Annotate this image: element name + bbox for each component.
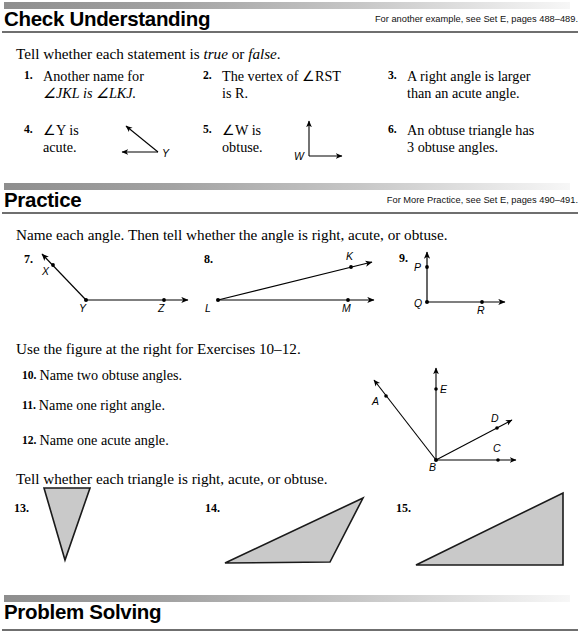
- exercise-3-line1: A right angle is larger: [407, 68, 530, 84]
- divider-problem-solving: [2, 629, 578, 631]
- exercise-4-number: 4.: [24, 123, 33, 137]
- exercise-2-number: 2.: [203, 69, 212, 83]
- exercise-3-number: 3.: [388, 69, 397, 83]
- figure-label-Y: Y: [162, 147, 170, 159]
- exercise-2-line1: The vertex of ∠RST: [222, 68, 341, 84]
- exercise-1-line2: ∠JKL is ∠LKJ.: [43, 85, 136, 101]
- divider-check-understanding: [2, 31, 578, 33]
- figure-label-Y: Y: [79, 302, 87, 314]
- exercise-10: 10.Name two obtuse angles.: [22, 367, 182, 384]
- exercise-11-number: 11.: [22, 399, 36, 412]
- figure-angle-KLM: K L M: [200, 248, 385, 314]
- instruction-end: .: [277, 45, 281, 62]
- exercise-6-line2: 3 obtuse angles.: [407, 139, 498, 155]
- exercise-10-text: Name two obtuse angles.: [40, 367, 183, 383]
- exercise-12-number: 12.: [22, 434, 37, 447]
- practice-note: For More Practice, see Set E, pages 490–…: [387, 195, 578, 205]
- figure-label-M: M: [342, 302, 351, 314]
- exercise-1-line1: Another name for: [43, 68, 144, 84]
- figure-angle-XYZ: X Y Z: [36, 248, 206, 314]
- exercise-6: 6. An obtuse triangle has 3 obtuse angle…: [388, 122, 568, 156]
- divider-practice: [2, 212, 578, 214]
- instruction-use-figure: Use the figure at the right for Exercise…: [16, 340, 301, 357]
- figure-label-Q: Q: [414, 297, 422, 309]
- exercise-5-line1: ∠W is: [222, 122, 261, 138]
- exercise-9-number: 9.: [399, 251, 408, 266]
- exercise-1-number: 1.: [24, 69, 33, 83]
- figure-label-B: B: [429, 461, 436, 473]
- exercise-4-line1: ∠Y is: [43, 122, 79, 138]
- figure-label-K: K: [346, 250, 354, 262]
- exercise-13-number: 13.: [14, 501, 29, 516]
- exercise-3: 3. A right angle is larger than an acute…: [388, 68, 568, 102]
- figure-label-L: L: [205, 302, 211, 314]
- exercise-10-number: 10.: [22, 369, 37, 382]
- exercise-11-text: Name one right angle.: [39, 397, 165, 413]
- exercise-7-number: 7.: [24, 252, 33, 267]
- instruction-true-word: true: [203, 45, 227, 62]
- exercise-12-text: Name one acute angle.: [40, 432, 169, 448]
- exercise-4-line2: acute.: [43, 139, 76, 155]
- figure-label-D: D: [491, 412, 499, 424]
- exercise-6-line1: An obtuse triangle has: [407, 122, 534, 138]
- exercise-5-number: 5.: [203, 123, 212, 137]
- page-title-check-understanding: Check Understanding: [4, 7, 210, 31]
- figure-triangle-13: [38, 485, 108, 575]
- check-understanding-note: For another example, see Set E, pages 48…: [375, 14, 578, 24]
- instruction-name-each-angle: Name each angle. Then tell whether the a…: [16, 226, 448, 243]
- exercise-4: 4. ∠Y is acute.: [24, 122, 114, 156]
- exercise-3-line2: than an acute angle.: [407, 85, 520, 101]
- page-title-problem-solving: Problem Solving: [4, 600, 161, 624]
- textbook-page: Check Understanding For another example,…: [0, 0, 580, 637]
- instruction-true-false: Tell whether each statement is true or f…: [16, 45, 281, 62]
- figure-label-C: C: [493, 442, 501, 454]
- exercise-5-line2: obtuse.: [222, 139, 263, 155]
- figure-angle-PQR: P Q R: [412, 246, 532, 316]
- figure-label-W: W: [294, 150, 305, 162]
- exercise-15-number: 15.: [396, 501, 411, 516]
- exercise-6-number: 6.: [388, 123, 397, 137]
- exercise-12: 12.Name one acute angle.: [22, 432, 169, 449]
- figure-rays-ABCDE: A E D C B: [352, 360, 572, 472]
- instruction-false-word: false: [248, 45, 277, 62]
- instruction-mid: or: [228, 45, 248, 62]
- exercise-2-line2: is R.: [222, 85, 248, 101]
- exercise-5: 5. ∠W is obtuse.: [203, 122, 283, 156]
- exercise-11: 11.Name one right angle.: [22, 397, 165, 414]
- figure-label-Z: Z: [157, 302, 165, 314]
- figure-label-P: P: [414, 261, 421, 273]
- exercise-1: 1. Another name for ∠JKL is ∠LKJ.: [24, 68, 174, 102]
- figure-triangle-14: [218, 485, 378, 575]
- exercise-2: 2. The vertex of ∠RST is R.: [203, 68, 353, 102]
- page-title-practice: Practice: [4, 188, 81, 212]
- figure-label-X: X: [41, 265, 50, 277]
- figure-triangle-15: [410, 480, 575, 575]
- instruction-lead: Tell whether each statement is: [16, 45, 203, 62]
- figure-label-A: A: [371, 395, 379, 407]
- figure-angle-W: W: [294, 116, 364, 168]
- figure-label-R: R: [477, 304, 485, 316]
- figure-angle-Y: Y: [112, 120, 192, 168]
- figure-label-E: E: [440, 383, 448, 395]
